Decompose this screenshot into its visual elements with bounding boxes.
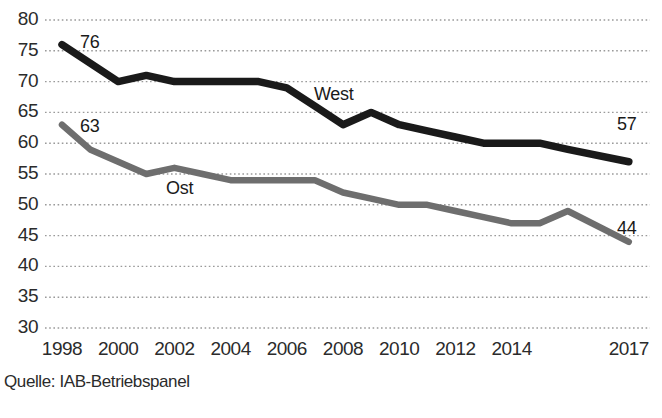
series-label-ost: Ost	[166, 178, 193, 199]
value-label-west-last: 57	[617, 114, 636, 135]
value-label-west-first: 76	[80, 32, 99, 53]
value-label-ost-first: 63	[80, 116, 99, 137]
x-axis-tick-2010: 2010	[369, 338, 429, 360]
y-axis-tick-55: 55	[0, 162, 38, 184]
x-axis-tick-1998: 1998	[32, 338, 92, 360]
y-axis-tick-40: 40	[0, 254, 38, 276]
y-axis-tick-35: 35	[0, 285, 38, 307]
source-note: Quelle: IAB-Betriebspanel	[4, 372, 190, 392]
y-axis-tick-45: 45	[0, 224, 38, 246]
y-axis-tick-50: 50	[0, 193, 38, 215]
x-axis-tick-2008: 2008	[313, 338, 373, 360]
value-label-ost-last: 44	[617, 218, 636, 239]
y-axis-tick-80: 80	[0, 8, 38, 30]
y-axis-tick-70: 70	[0, 70, 38, 92]
chart-root: 8075706560555045403530199820002002200420…	[0, 0, 662, 418]
y-axis-tick-60: 60	[0, 131, 38, 153]
x-axis-tick-2000: 2000	[88, 338, 148, 360]
y-axis-tick-65: 65	[0, 100, 38, 122]
x-axis-tick-2014: 2014	[482, 338, 542, 360]
x-axis-tick-2017: 2017	[599, 338, 659, 360]
x-axis-tick-2004: 2004	[201, 338, 261, 360]
series-label-west: West	[314, 84, 353, 105]
x-axis-tick-2006: 2006	[257, 338, 317, 360]
y-axis-tick-75: 75	[0, 39, 38, 61]
x-axis-tick-2002: 2002	[144, 338, 204, 360]
x-axis-tick-2012: 2012	[425, 338, 485, 360]
y-axis-tick-30: 30	[0, 316, 38, 338]
